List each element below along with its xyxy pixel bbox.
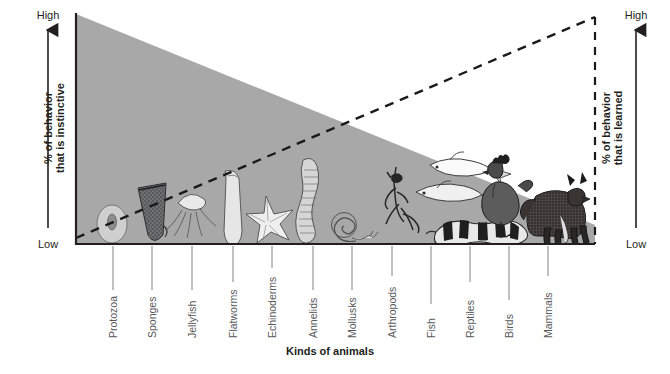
amoeba-icon: [97, 205, 127, 243]
category-label-annelids: Annelids: [307, 298, 319, 338]
category-label-protozoa: Protozoa: [107, 296, 119, 338]
right-axis-title-line1: % of behavior: [600, 91, 612, 164]
left-axis-title-line1: % of behavior: [42, 91, 54, 164]
x-axis-title: Kinds of animals: [286, 345, 374, 357]
category-label-jellyfish: Jellyfish: [186, 300, 198, 338]
category-label-reptiles: Reptiles: [464, 300, 476, 338]
category-label-birds: Birds: [503, 314, 515, 338]
category-label-flatworms: Flatworms: [227, 290, 239, 338]
right-axis-high-label: High: [625, 9, 648, 21]
category-label-mammals: Mammals: [542, 292, 554, 338]
category-labels-group: ProtozoaSpongesJellyfishFlatwormsEchinod…: [107, 246, 554, 338]
instinct-learning-diagram: High Low % of behavior that is instincti…: [0, 0, 670, 374]
left-axis-high-label: High: [37, 9, 60, 21]
category-label-fish: Fish: [425, 318, 437, 338]
left-axis-title-line2: that is instinctive: [54, 83, 66, 173]
category-label-mollusks: Mollusks: [346, 297, 358, 338]
left-axis-low-label: Low: [38, 238, 58, 250]
right-axis-title-line2: that is learned: [612, 91, 624, 166]
category-label-arthropods: Arthropods: [386, 287, 398, 338]
flatworm-icon: [224, 170, 242, 245]
category-label-echinoderms: Echinoderms: [266, 277, 278, 338]
right-axis-low-label: Low: [626, 238, 646, 250]
diagram-canvas: High Low % of behavior that is instincti…: [0, 0, 670, 374]
category-label-sponges: Sponges: [146, 297, 158, 338]
